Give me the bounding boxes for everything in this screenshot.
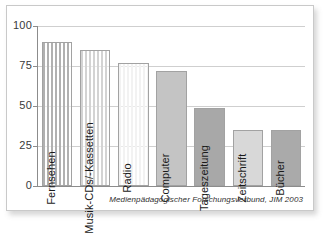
y-tick-label: 0 — [26, 180, 32, 191]
bar: Zeitschrift — [233, 130, 264, 186]
bar-category-label: Radio — [122, 163, 133, 192]
bar: Computer — [156, 71, 187, 186]
y-tick-mark — [33, 186, 37, 187]
y-tick-mark — [33, 106, 37, 107]
chart-panel: 0255075100 FernsehenMusik-CDs/-Kassetten… — [6, 5, 314, 211]
bar: Tageszeitung — [194, 108, 225, 186]
y-tick-mark — [33, 26, 37, 27]
bar-category-label: Bücher — [275, 160, 286, 195]
bar: Fernsehen — [42, 42, 73, 186]
bar-category-label: Fernsehen — [46, 151, 57, 205]
y-tick-label: 25 — [19, 140, 32, 151]
x-axis-line — [37, 186, 305, 187]
y-tick-label: 75 — [19, 60, 32, 71]
y-axis-labels: 0255075100 — [7, 26, 32, 186]
chart-figure: 0255075100 FernsehenMusik-CDs/-Kassetten… — [0, 0, 326, 224]
y-tick-mark — [33, 146, 37, 147]
source-note: Medienpädagogischer Forschungsverbund, J… — [109, 195, 303, 204]
bars-group: FernsehenMusik-CDs/-KassettenRadioComput… — [38, 26, 305, 186]
bar-category-label: Musik-CDs/-Kassetten — [84, 122, 95, 224]
y-tick-mark — [33, 66, 37, 67]
bar: Musik-CDs/-Kassetten — [80, 50, 111, 186]
y-tick-label: 50 — [19, 100, 32, 111]
bar: Bücher — [271, 130, 302, 186]
y-tick-label: 100 — [13, 20, 32, 31]
plot-area: FernsehenMusik-CDs/-KassettenRadioComput… — [37, 26, 305, 186]
bar: Radio — [118, 63, 149, 186]
